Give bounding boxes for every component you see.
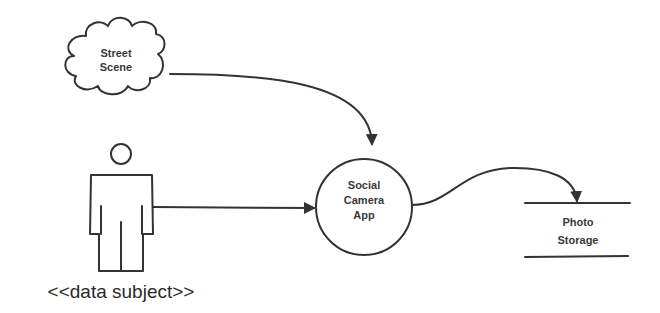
street-scene-label-line1: Street xyxy=(100,47,132,59)
person-icon xyxy=(90,144,153,271)
street-scene-label-line2: Scene xyxy=(100,61,132,73)
process-label-line2: Camera xyxy=(344,194,385,206)
process-label-line3: App xyxy=(353,209,375,221)
flow-arrow-subject-to-app xyxy=(153,207,314,208)
photo-storage-label-line2: Storage xyxy=(558,234,599,246)
store-bottom-line xyxy=(525,256,628,257)
photo-storage-label-line1: Photo xyxy=(562,216,593,228)
diagram-canvas: Street Scene <<data subject>> Social Cam… xyxy=(0,0,660,313)
photo-storage-node: Photo Storage xyxy=(525,203,630,257)
process-label-line1: Social xyxy=(348,179,380,191)
data-subject-node: <<data subject>> xyxy=(48,144,195,302)
street-scene-node: Street Scene xyxy=(65,18,164,95)
flow-arrow-app-to-storage xyxy=(412,168,577,205)
social-camera-app-node: Social Camera App xyxy=(316,159,412,255)
process-circle-icon xyxy=(316,159,412,255)
data-subject-label: <<data subject>> xyxy=(48,281,195,302)
flow-arrow-street-to-app xyxy=(170,74,372,144)
